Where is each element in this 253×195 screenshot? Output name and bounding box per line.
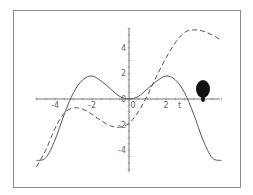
ink-blot — [196, 80, 210, 98]
plot-area: -4-202420-2-4t — [0, 0, 253, 195]
x-tick-label: 2 — [163, 101, 168, 110]
ink-blot-drip — [201, 96, 205, 102]
y-tick-label: -4 — [118, 146, 126, 155]
y-tick-label: 2 — [121, 69, 126, 78]
x-tick-label: -4 — [51, 101, 59, 110]
x-tick-label: -2 — [88, 101, 96, 110]
y-tick-label: 4 — [121, 44, 126, 53]
y-tick-label: -2 — [118, 121, 126, 130]
x-tick-label: 0 — [130, 101, 135, 110]
x-axis-label: t — [178, 101, 181, 110]
y-tick-label: 0 — [121, 95, 126, 104]
